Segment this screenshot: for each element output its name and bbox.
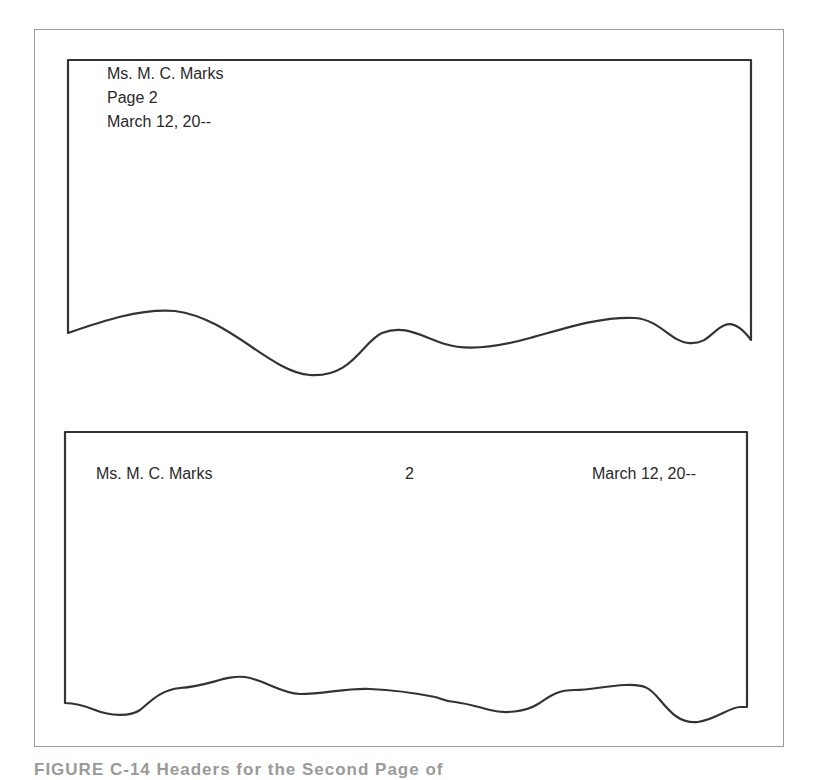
header-block-name: Ms. M. C. Marks — [107, 62, 223, 86]
header-horizontal-date: March 12, 20-- — [592, 462, 696, 486]
header-block-page: Page 2 — [107, 86, 158, 110]
page-outline-block-header — [68, 60, 751, 375]
header-block-date: March 12, 20-- — [107, 110, 211, 134]
header-horizontal-name: Ms. M. C. Marks — [96, 462, 212, 486]
header-horizontal-page-number: 2 — [405, 462, 414, 486]
figure-caption: FIGURE C-14 Headers for the Second Page … — [34, 760, 443, 780]
